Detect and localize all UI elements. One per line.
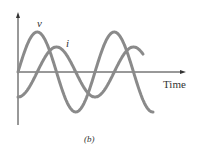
y-axis-arrow-icon (16, 12, 20, 18)
figure-caption: (b) (84, 135, 95, 144)
voltage-label: v (37, 18, 42, 29)
current-label: i (66, 38, 69, 49)
x-axis-arrow-icon (180, 70, 186, 74)
x-axis-label: Time (163, 79, 186, 90)
